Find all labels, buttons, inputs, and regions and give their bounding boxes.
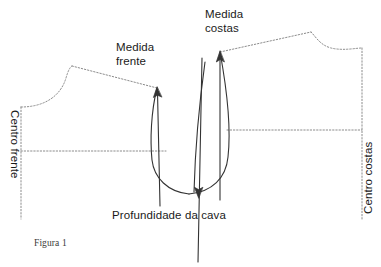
label-profundidade-da-cava: Profundidade da cava	[112, 209, 226, 223]
medida-frente-arrow-shaft	[158, 92, 161, 206]
back-shoulder-line	[220, 32, 311, 52]
pattern-diagram-svg	[0, 0, 381, 267]
figure-caption: Figura 1	[34, 237, 67, 251]
front-neckline-curve	[21, 66, 72, 107]
medida-costas-arrow	[216, 51, 224, 200]
back-bodice-outline	[220, 32, 362, 219]
label-centro-costas: Centro costas	[362, 142, 376, 218]
armhole-cava-shape	[151, 52, 229, 194]
profundidade-arrow-shaft	[198, 58, 202, 262]
armhole-left-curve	[151, 88, 189, 194]
back-neckline-curve	[311, 32, 362, 49]
front-bodice-outline	[21, 66, 166, 219]
label-medida-frente: Medida frente	[116, 41, 154, 68]
front-shoulder-line	[72, 66, 157, 88]
label-centro-frente: Centro frente	[8, 106, 22, 178]
label-medida-costas: Medida costas	[205, 8, 243, 35]
medida-frente-arrow	[153, 87, 161, 206]
figure-container: Medida frente Medida costas Profundidade…	[0, 0, 381, 267]
